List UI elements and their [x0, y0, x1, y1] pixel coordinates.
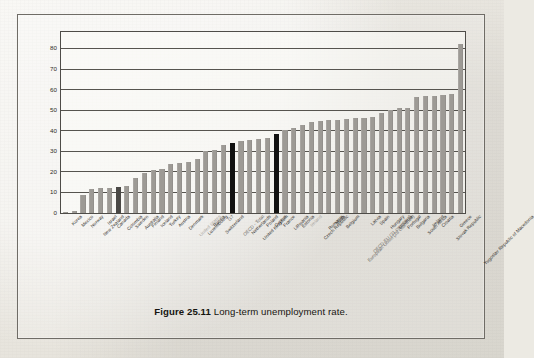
y-axis-tick-label: 0 — [53, 209, 57, 216]
bar — [212, 150, 217, 213]
y-axis-tick-label: 20 — [50, 167, 57, 174]
figure-frame: 01020304050607080 KoreaMexicoNorwayNew Z… — [17, 14, 485, 339]
bar — [388, 110, 393, 213]
bar — [432, 96, 437, 213]
bar — [142, 173, 147, 213]
bar — [309, 122, 314, 213]
bars-container — [61, 32, 465, 213]
bar — [256, 139, 261, 213]
bar — [186, 162, 191, 213]
bar — [335, 120, 340, 213]
bar — [326, 120, 331, 213]
bar — [318, 121, 323, 213]
bar — [379, 113, 384, 213]
bar — [423, 96, 428, 213]
bar — [238, 141, 243, 213]
bar — [361, 118, 366, 213]
bar — [151, 170, 156, 213]
bar — [282, 130, 287, 213]
y-axis-tick-label: 70 — [50, 65, 57, 72]
bar — [458, 44, 463, 213]
bar — [397, 108, 402, 213]
y-axis-tick-label: 50 — [50, 106, 57, 113]
bar — [195, 159, 200, 213]
bar — [80, 195, 85, 214]
bar — [230, 143, 235, 213]
y-axis-tick-label: 30 — [50, 147, 57, 154]
bar — [177, 163, 182, 213]
chart-plot-area — [60, 31, 466, 214]
bar — [203, 151, 208, 213]
y-axis-tick-label: 60 — [50, 85, 57, 92]
bar — [247, 140, 252, 213]
bar — [344, 119, 349, 213]
bar — [72, 211, 77, 213]
bar — [159, 169, 164, 213]
bar — [449, 94, 454, 213]
y-axis-tick-label: 40 — [50, 126, 57, 133]
bar — [274, 134, 279, 213]
bar — [98, 188, 103, 213]
y-axis-tick-label: 80 — [50, 44, 57, 51]
bar — [353, 118, 358, 213]
bar — [405, 108, 410, 213]
figure-number: Figure 25.11 — [154, 306, 211, 317]
bar — [116, 187, 121, 213]
bar — [414, 97, 419, 213]
bar — [370, 117, 375, 213]
bar — [440, 95, 445, 213]
bar — [265, 138, 270, 213]
y-axis-tick-labels: 01020304050607080 — [38, 31, 57, 212]
bar — [107, 188, 112, 213]
bar — [89, 189, 94, 213]
bar — [63, 212, 68, 213]
bar — [221, 145, 226, 213]
bar — [291, 128, 296, 213]
bar — [124, 186, 129, 213]
y-axis-tick-label: 10 — [50, 188, 57, 195]
bar — [300, 125, 305, 213]
figure-caption: Figure 25.11 Long-term unemployment rate… — [18, 306, 484, 317]
bar — [168, 164, 173, 213]
bar — [133, 178, 138, 213]
figure-caption-text: Long-term unemployment rate. — [214, 306, 348, 317]
